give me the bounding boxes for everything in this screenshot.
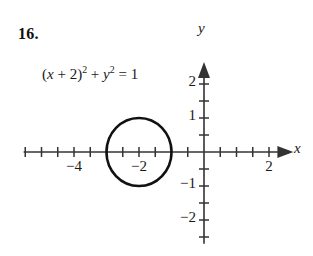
x-tick-label: −4	[54, 158, 94, 175]
x-tick-label: −2	[119, 158, 159, 175]
y-axis-label: y	[198, 20, 205, 37]
y-tick-label: 2	[160, 73, 196, 90]
x-axis-label: x	[294, 140, 301, 157]
exercise-figure: 16. (x + 2)2 + y2 = 1 x y −42−221−1−2	[0, 0, 313, 256]
y-axis-arrowhead	[198, 62, 210, 78]
x-tick-label: 2	[249, 158, 289, 175]
y-tick-label: −2	[160, 209, 196, 226]
y-tick-label: 1	[160, 107, 196, 124]
x-axis-arrowhead	[277, 146, 293, 158]
y-tick-label: −1	[160, 175, 196, 192]
coordinate-plane	[0, 0, 313, 256]
